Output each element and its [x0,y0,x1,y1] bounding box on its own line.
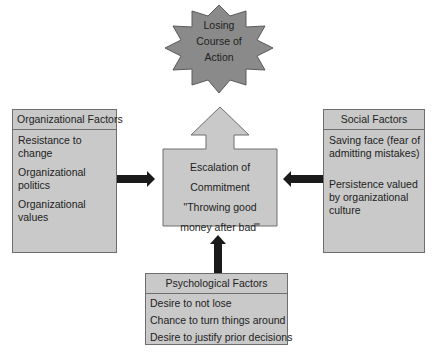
organizational-factors-title: Organizational Factors [13,110,116,130]
outcome-line: Course of [169,33,269,49]
organizational-item: Organizational politics [18,166,113,192]
outcome-line: Losing [169,17,269,33]
arrow-left-icon [283,171,323,187]
social-item: Persistence valued by organizational cul… [329,178,421,217]
arrow-up-icon [210,235,226,273]
outcome-label: Losing Course of Action [169,17,269,65]
organizational-item: Resistance to change [18,134,113,160]
escalation-line: Commitment [163,177,277,197]
escalation-line: "Throwing good [163,197,277,217]
escalation-line: Escalation of [163,157,277,177]
escalation-line: money after bad" [163,217,277,237]
organizational-item: Organizational values [18,198,113,224]
arrow-right-icon [116,171,155,187]
psychological-item: Chance to turn things around [146,312,287,329]
psychological-item: Desire to justify prior decisions [146,329,287,346]
outcome-line: Action [169,49,269,65]
psychological-factors-box: Psychological Factors Desire to not lose… [145,273,288,345]
social-item: Saving face (fear of admitting mistakes) [329,134,421,160]
psychological-item: Desire to not lose [146,295,287,312]
social-factors-title: Social Factors [324,110,424,130]
escalation-label: Escalation of Commitment "Throwing good … [163,149,277,237]
social-factors-box: Social Factors Saving face (fear of admi… [323,109,425,253]
organizational-factors-box: Organizational Factors Resistance to cha… [12,109,117,253]
psychological-factors-title: Psychological Factors [146,274,287,294]
